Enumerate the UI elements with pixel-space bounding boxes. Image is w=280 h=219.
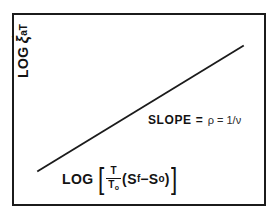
xi-dot-accent: ˙ <box>11 34 22 38</box>
x-axis-label-prefix: LOG <box>62 171 94 187</box>
x-axis-group-close: ) <box>165 171 170 187</box>
x-axis-term-two: S <box>149 171 159 187</box>
slope-expression: ρ = 1/ν <box>208 114 241 126</box>
data-line-shift-factor <box>38 46 243 171</box>
x-axis-label: LOG [ T To ( S f − S o ) ] <box>62 166 178 191</box>
slope-annotation: SLOPE = ρ = 1/ν <box>148 113 241 127</box>
fraction-numerator: T <box>108 166 119 177</box>
x-axis-operator: − <box>140 171 149 187</box>
fraction-denominator-subscript: o <box>115 184 119 191</box>
slope-label: SLOPE <box>148 113 192 127</box>
x-axis-fraction: T To <box>106 166 121 191</box>
x-axis-open-bracket: [ <box>98 167 105 190</box>
y-axis-label: LOG ˙ ξ aT <box>10 0 36 78</box>
fraction-denominator: To <box>106 180 121 191</box>
x-axis-term-one: S <box>127 171 137 187</box>
figure-container: LOG ˙ ξ aT LOG [ T To ( S f − S o ) ] SL… <box>0 0 280 219</box>
x-axis-close-bracket: ] <box>171 167 178 190</box>
slope-equals-sign: = <box>196 113 203 127</box>
y-axis-label-symbol: ˙ ξ <box>14 36 32 44</box>
y-axis-label-prefix: LOG <box>15 46 31 78</box>
